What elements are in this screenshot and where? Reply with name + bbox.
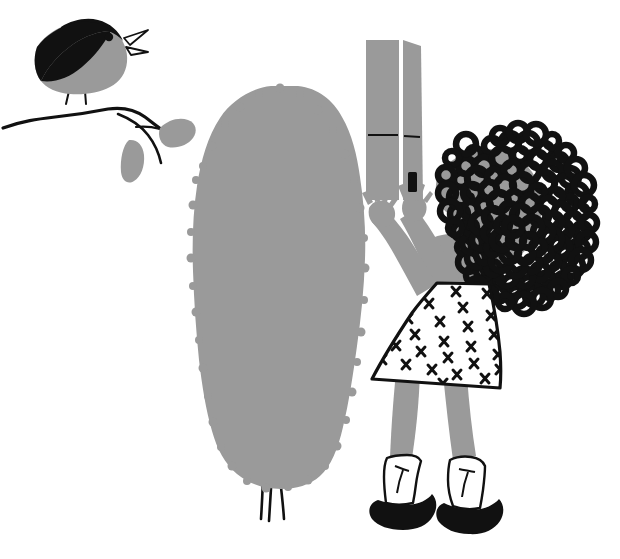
bird-eye <box>105 33 113 41</box>
carton-panel-left <box>366 40 399 200</box>
sock-right <box>448 457 485 509</box>
illustration-svg <box>0 0 620 559</box>
carton-group <box>366 40 423 201</box>
carton-seam-right <box>404 136 420 137</box>
carton-latch <box>408 172 417 192</box>
bush-foliage <box>193 86 366 489</box>
illustration-canvas <box>0 0 620 559</box>
